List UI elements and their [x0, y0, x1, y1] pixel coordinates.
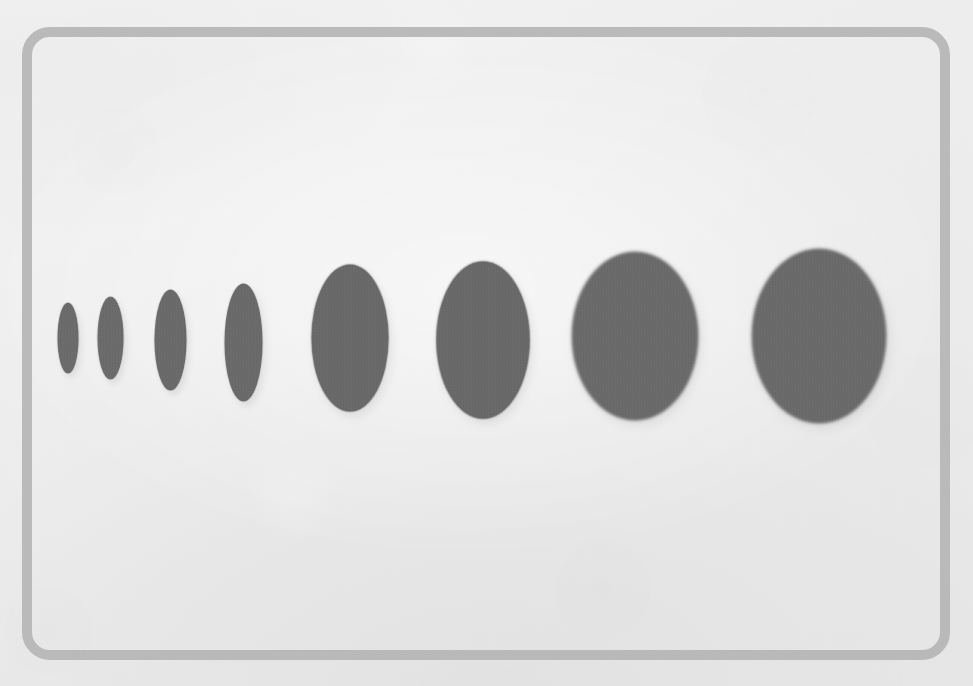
ellipse-7: [573, 253, 697, 419]
ellipse-6: [437, 262, 529, 418]
ellipse-8: [753, 250, 885, 422]
scanned-figure-canvas: [0, 0, 973, 686]
ellipse-4: [225, 284, 262, 401]
ellipse-5: [312, 265, 388, 411]
ellipse-2: [98, 297, 123, 379]
ellipse-3: [155, 290, 186, 390]
ellipse-1: [58, 303, 78, 373]
ellipse-series-group: [0, 0, 973, 686]
